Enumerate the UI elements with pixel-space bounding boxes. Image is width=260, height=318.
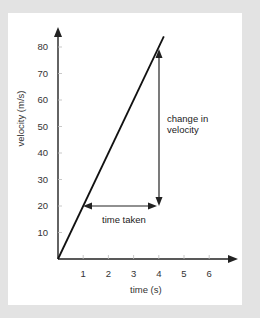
- arrowhead-down-icon: [156, 197, 163, 206]
- arrowhead-right-icon: [148, 203, 157, 210]
- y-axis-label: velocity (m/s): [15, 83, 26, 155]
- axis-ticks: [58, 47, 209, 259]
- y-axis-arrow-icon: [54, 27, 62, 37]
- x-tick-label: 3: [127, 269, 141, 279]
- change-label-line1: change in: [167, 113, 208, 124]
- velocity-line: [58, 36, 164, 259]
- y-tick-label: 70: [28, 69, 48, 79]
- x-axis-arrow-icon: [228, 255, 238, 263]
- x-tick-label: 6: [202, 269, 216, 279]
- y-tick-label: 60: [28, 95, 48, 105]
- x-tick-label: 5: [177, 269, 191, 279]
- y-tick-label: 80: [28, 42, 48, 52]
- time-taken-label: time taken: [102, 214, 146, 225]
- y-tick-label: 50: [28, 122, 48, 132]
- x-tick-label: 4: [152, 269, 166, 279]
- change-in-velocity-label: change in velocity: [167, 113, 208, 135]
- x-tick-label: 2: [101, 269, 115, 279]
- y-tick-label: 40: [28, 148, 48, 158]
- x-tick-label: 1: [76, 269, 90, 279]
- y-tick-label: 10: [28, 228, 48, 238]
- y-tick-label: 20: [28, 201, 48, 211]
- change-label-line2: velocity: [167, 124, 208, 135]
- y-tick-label: 30: [28, 175, 48, 185]
- x-axis-label: time (s): [130, 285, 162, 295]
